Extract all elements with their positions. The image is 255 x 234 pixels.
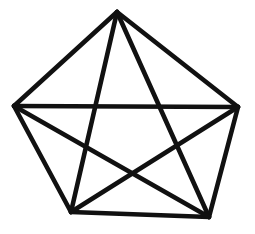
diagonal-left-right [14,106,238,107]
figure-canvas [0,0,255,234]
pentagon-complete-graph [0,0,255,234]
